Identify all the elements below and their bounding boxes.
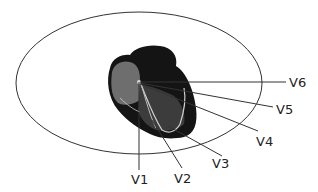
lead-label-v3: V3	[212, 157, 229, 170]
lead-label-v5: V5	[276, 103, 293, 116]
lead-diagram: V1 V2 V3 V4 V5 V6	[0, 0, 318, 192]
lead-label-v1: V1	[131, 173, 148, 186]
lead-label-v4: V4	[256, 135, 273, 148]
diagram-graphic	[0, 0, 318, 192]
heart-illustration	[108, 45, 196, 138]
lead-label-v2: V2	[174, 172, 191, 185]
lead-label-v6: V6	[289, 76, 306, 89]
